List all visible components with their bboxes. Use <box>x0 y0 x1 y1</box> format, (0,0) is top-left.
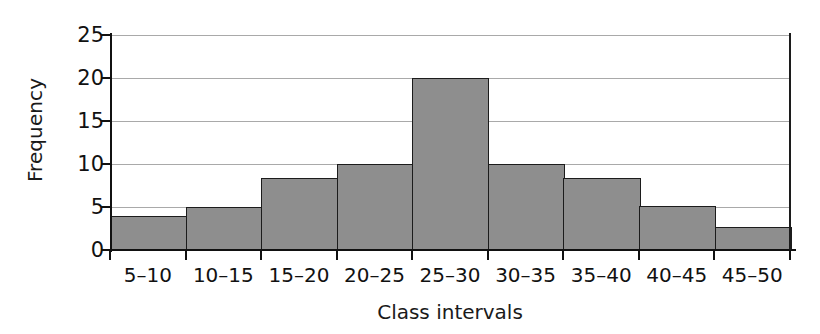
y-tick-mark <box>101 120 110 122</box>
y-tick-label: 0 <box>56 238 104 262</box>
x-axis-tick-labels: 5–1010–1515–2020–2525–3030–3535–4040–454… <box>110 263 790 287</box>
y-tick-label: 25 <box>56 23 104 47</box>
x-tick-mark <box>260 250 262 260</box>
histogram-bar <box>337 164 414 250</box>
x-tick-mark <box>638 250 640 260</box>
x-tick-mark <box>185 250 187 260</box>
x-tick-mark <box>411 250 413 260</box>
x-tick-label: 30–35 <box>488 263 564 287</box>
y-tick-label: 10 <box>56 152 104 176</box>
y-axis-tick-labels: 0510152025 <box>52 0 104 334</box>
x-tick-label: 25–30 <box>412 263 488 287</box>
histogram-bar <box>563 178 640 250</box>
plot-area <box>110 35 790 250</box>
x-tick-mark <box>562 250 564 260</box>
y-tick-label: 20 <box>56 66 104 90</box>
y-tick-mark <box>101 206 110 208</box>
x-axis-line <box>104 249 796 251</box>
x-tick-mark <box>109 250 111 260</box>
y-axis-line <box>110 33 112 252</box>
y-tick-mark <box>101 163 110 165</box>
x-axis-title: Class intervals <box>110 300 790 324</box>
histogram-bar <box>110 216 187 250</box>
histogram-bar <box>715 227 792 250</box>
x-tick-label: 45–50 <box>715 263 791 287</box>
x-tick-label: 5–10 <box>110 263 186 287</box>
y-tick-mark <box>101 34 110 36</box>
y-tick-mark <box>101 77 110 79</box>
histogram-bar <box>186 207 263 250</box>
x-tick-mark <box>713 250 715 260</box>
x-tick-label: 10–15 <box>186 263 262 287</box>
plot-right-border <box>789 33 791 252</box>
y-tick-label: 15 <box>56 109 104 133</box>
histogram-bar <box>412 78 489 250</box>
histogram-figure: Frequency 0510152025 5–1010–1515–2020–25… <box>0 0 820 334</box>
y-tick-label: 5 <box>56 195 104 219</box>
histogram-bar <box>639 206 716 250</box>
x-tick-mark <box>789 250 791 260</box>
bar-series <box>110 35 790 250</box>
x-tick-label: 35–40 <box>563 263 639 287</box>
y-axis-title-text: Frequency <box>23 78 47 182</box>
x-tick-mark <box>336 250 338 260</box>
x-tick-label: 15–20 <box>261 263 337 287</box>
histogram-bar <box>261 178 338 250</box>
x-tick-mark <box>487 250 489 260</box>
histogram-bar <box>488 164 565 250</box>
x-tick-label: 40–45 <box>639 263 715 287</box>
x-tick-label: 20–25 <box>337 263 413 287</box>
